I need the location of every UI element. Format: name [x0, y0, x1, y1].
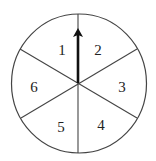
section-label-2: 2	[94, 42, 102, 58]
spinner-diagram: 1 2 3 4 5 6	[0, 0, 156, 161]
section-label-5: 5	[57, 119, 65, 135]
section-label-1: 1	[58, 42, 66, 58]
section-label-3: 3	[118, 79, 126, 95]
section-label-6: 6	[30, 79, 38, 95]
section-label-4: 4	[97, 117, 105, 133]
